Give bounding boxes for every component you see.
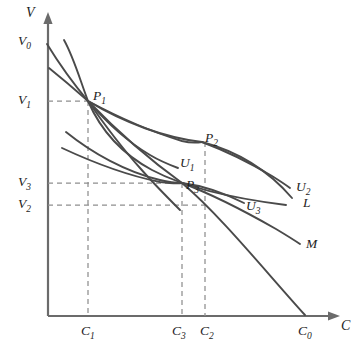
curve-label-u1: U1 (180, 156, 195, 173)
x-tick-c2: C2 (200, 324, 214, 341)
curve-u2-upper-trunk (88, 101, 202, 143)
x-tick-c3: C3 (172, 324, 186, 341)
x-tick-c0: C0 (298, 324, 312, 341)
y-tick-v0: V0 (18, 34, 31, 51)
figure-canvas (0, 0, 359, 350)
y-tick-v3: V3 (18, 175, 31, 192)
c-axis-label: C (341, 319, 350, 333)
line-m-label-branch (182, 183, 300, 244)
curve-u3-left-branch (62, 148, 182, 183)
curve-u2-path (64, 40, 286, 205)
point-label-p3: P3 (186, 178, 199, 195)
curve-label-u3: U3 (246, 199, 261, 216)
curve-label-l: L (303, 196, 311, 210)
c-axis-arrowhead (328, 311, 340, 320)
indifference-curves-group (47, 40, 290, 210)
guide-lines-group (48, 101, 205, 316)
y-tick-v2: V2 (18, 197, 31, 214)
v-axis-label: V (26, 6, 35, 20)
y-tick-v1: V1 (18, 93, 31, 110)
point-label-p1: P1 (93, 89, 106, 106)
line-m-path (88, 101, 305, 315)
point-label-p2: P2 (205, 131, 218, 148)
curve-label-m: M (306, 237, 317, 251)
x-tick-c1: C1 (81, 324, 95, 341)
indifference-curve-figure: V C V0 V1 V3 V2 C1 C3 C2 C0 P1 P2 P3 U1 … (0, 0, 359, 350)
v-axis-arrowhead (43, 12, 52, 24)
